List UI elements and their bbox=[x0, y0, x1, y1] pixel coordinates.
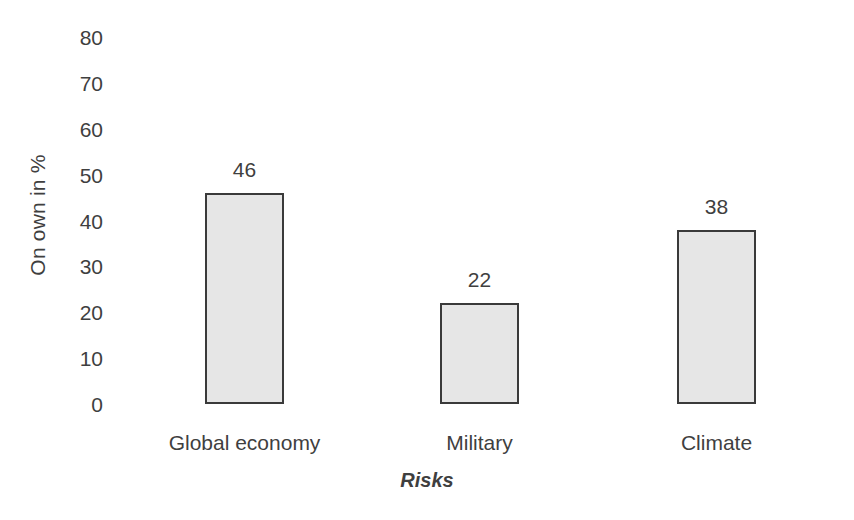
bar-value-label: 22 bbox=[468, 269, 491, 290]
x-axis-title: Risks bbox=[400, 470, 453, 490]
x-axis-category-label: Climate bbox=[681, 432, 752, 453]
bar[interactable] bbox=[677, 230, 756, 404]
plot-area: 46Global economy22Military38Climate bbox=[0, 0, 854, 520]
bar-value-label: 38 bbox=[705, 196, 728, 217]
bar-chart: On own in % 80706050403020100 46Global e… bbox=[0, 0, 854, 520]
x-axis-category-label: Global economy bbox=[169, 432, 321, 453]
bar[interactable] bbox=[205, 193, 284, 404]
x-axis-category-label: Military bbox=[446, 432, 513, 453]
bar-value-label: 46 bbox=[233, 159, 256, 180]
bar[interactable] bbox=[440, 303, 519, 404]
